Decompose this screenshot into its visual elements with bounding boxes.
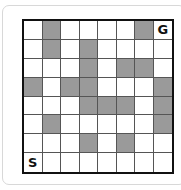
open-cell[interactable] [135,40,154,59]
open-cell[interactable] [61,21,80,40]
open-cell[interactable] [80,153,99,172]
open-cell[interactable] [24,97,43,116]
open-cell[interactable] [98,78,117,97]
open-cell[interactable] [117,21,136,40]
maze-grid: GS [22,19,174,174]
open-cell[interactable] [154,59,173,78]
open-cell[interactable] [43,97,62,116]
wall-cell[interactable] [43,40,62,59]
open-cell[interactable] [98,153,117,172]
goal-cell[interactable]: G [154,21,173,40]
wall-cell[interactable] [80,97,99,116]
wall-cell[interactable] [80,40,99,59]
start-cell[interactable]: S [24,153,43,172]
wall-cell[interactable] [61,78,80,97]
open-cell[interactable] [135,134,154,153]
wall-cell[interactable] [117,59,136,78]
wall-cell[interactable] [117,134,136,153]
open-cell[interactable] [80,115,99,134]
open-cell[interactable] [135,115,154,134]
open-cell[interactable] [24,59,43,78]
open-cell[interactable] [117,153,136,172]
open-cell[interactable] [117,115,136,134]
wall-cell[interactable] [154,97,173,116]
open-cell[interactable] [135,97,154,116]
wall-cell[interactable] [98,97,117,116]
wall-cell[interactable] [43,115,62,134]
open-cell[interactable] [80,21,99,40]
open-cell[interactable] [98,59,117,78]
open-cell[interactable] [135,153,154,172]
open-cell[interactable] [98,115,117,134]
open-cell[interactable] [135,78,154,97]
wall-cell[interactable] [154,78,173,97]
wall-cell[interactable] [80,78,99,97]
open-cell[interactable] [43,134,62,153]
open-cell[interactable] [24,134,43,153]
open-cell[interactable] [98,134,117,153]
open-cell[interactable] [61,134,80,153]
open-cell[interactable] [61,115,80,134]
wall-cell[interactable] [80,59,99,78]
open-cell[interactable] [98,40,117,59]
wall-cell[interactable] [135,21,154,40]
open-cell[interactable] [98,21,117,40]
open-cell[interactable] [61,40,80,59]
wall-cell[interactable] [154,115,173,134]
open-cell[interactable] [117,78,136,97]
open-cell[interactable] [24,40,43,59]
wall-cell[interactable] [117,97,136,116]
open-cell[interactable] [117,40,136,59]
wall-cell[interactable] [43,21,62,40]
open-cell[interactable] [43,153,62,172]
open-cell[interactable] [154,153,173,172]
open-cell[interactable] [24,21,43,40]
open-cell[interactable] [43,59,62,78]
wall-cell[interactable] [24,78,43,97]
open-cell[interactable] [61,97,80,116]
open-cell[interactable] [61,59,80,78]
wall-cell[interactable] [135,59,154,78]
open-cell[interactable] [61,153,80,172]
open-cell[interactable] [154,40,173,59]
open-cell[interactable] [154,134,173,153]
open-cell[interactable] [24,115,43,134]
open-cell[interactable] [43,78,62,97]
wall-cell[interactable] [80,134,99,153]
